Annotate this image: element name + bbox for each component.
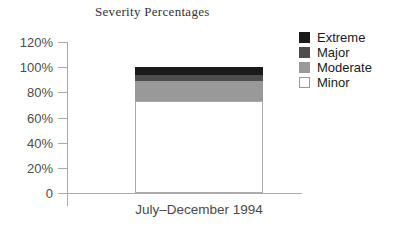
y-tick-label: 20% bbox=[10, 162, 53, 175]
x-category-label: July–December 1994 bbox=[99, 202, 299, 217]
legend-label: Major bbox=[317, 45, 350, 60]
y-tick-label: 120% bbox=[10, 36, 53, 49]
y-tick bbox=[58, 118, 68, 119]
chart-title: Severity Percentages bbox=[95, 4, 210, 20]
y-tick bbox=[58, 92, 68, 93]
chart-canvas: Severity Percentages 120%100%80%60%40%20… bbox=[0, 0, 393, 228]
legend-item-moderate: Moderate bbox=[299, 60, 372, 75]
legend-label: Extreme bbox=[317, 30, 365, 45]
y-tick bbox=[58, 42, 68, 43]
bar-segment-moderate bbox=[135, 81, 263, 101]
bar-segment-minor bbox=[135, 101, 263, 193]
minor-swatch-icon bbox=[299, 77, 310, 88]
major-swatch-icon bbox=[299, 47, 310, 58]
x-axis-line bbox=[58, 193, 302, 194]
y-tick bbox=[58, 168, 68, 169]
legend-item-minor: Minor bbox=[299, 75, 372, 90]
y-tick-label: 60% bbox=[10, 112, 53, 125]
legend: Extreme Major Moderate Minor bbox=[299, 30, 372, 90]
y-tick-label: 0 bbox=[10, 187, 53, 200]
y-tick-label: 40% bbox=[10, 137, 53, 150]
extreme-swatch-icon bbox=[299, 32, 310, 43]
y-tick-label: 100% bbox=[10, 61, 53, 74]
y-tick bbox=[58, 143, 68, 144]
legend-item-major: Major bbox=[299, 45, 372, 60]
legend-item-extreme: Extreme bbox=[299, 30, 372, 45]
legend-label: Minor bbox=[317, 75, 350, 90]
bar-segment-major bbox=[135, 75, 263, 81]
bar-segment-extreme bbox=[135, 67, 263, 75]
y-tick bbox=[58, 193, 68, 194]
moderate-swatch-icon bbox=[299, 62, 310, 73]
legend-label: Moderate bbox=[317, 60, 372, 75]
y-tick-label: 80% bbox=[10, 86, 53, 99]
y-tick bbox=[58, 67, 68, 68]
